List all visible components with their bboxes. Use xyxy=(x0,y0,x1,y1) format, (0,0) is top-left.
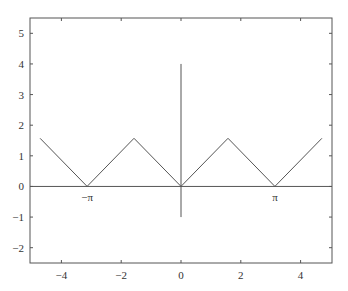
x-tick-label: 2 xyxy=(238,269,244,281)
x-tick-label: 4 xyxy=(298,269,304,281)
y-tick-label: 0 xyxy=(19,180,25,192)
x-tick-label: −4 xyxy=(56,269,68,281)
y-tick-label: 3 xyxy=(19,89,25,101)
chart: −4−2024−2−1012345 −ππ xyxy=(0,0,348,291)
x-tick-label: 0 xyxy=(178,269,184,281)
annotation-label: π xyxy=(272,191,278,203)
ticks: −4−2024−2−1012345 xyxy=(12,18,332,281)
plot-area xyxy=(30,64,332,217)
y-tick-label: −1 xyxy=(12,211,24,223)
y-tick-label: −2 xyxy=(12,242,24,254)
y-tick-label: 4 xyxy=(19,58,25,70)
y-tick-label: 1 xyxy=(19,150,25,162)
annotation-label: −π xyxy=(81,191,93,203)
annotations: −ππ xyxy=(81,191,278,203)
y-tick-label: 5 xyxy=(19,27,25,39)
y-tick-label: 2 xyxy=(19,119,25,131)
x-tick-label: −2 xyxy=(115,269,127,281)
